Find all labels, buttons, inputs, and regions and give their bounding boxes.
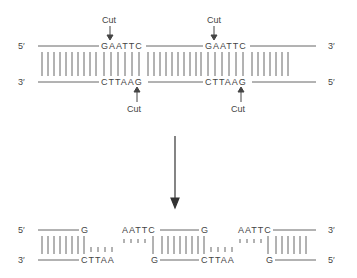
top-rungs: [42, 52, 288, 76]
dna-lines-svg: [0, 0, 357, 278]
process-arrow-icon: [171, 136, 179, 208]
